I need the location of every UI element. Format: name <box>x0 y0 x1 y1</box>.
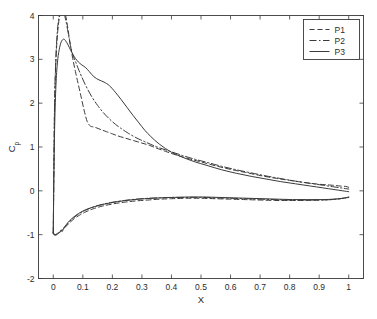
series-p2-lower-line <box>53 197 348 234</box>
series-p3-upper-line <box>53 39 348 234</box>
y-tick-label: -1 <box>27 230 35 240</box>
x-axis-title: X <box>198 294 205 305</box>
x-tick-label: 0.7 <box>254 282 266 292</box>
legend[interactable]: P1P2P3 <box>304 20 360 60</box>
x-tick-label: 0.1 <box>77 282 89 292</box>
x-tick-label: 0.2 <box>106 282 118 292</box>
x-tick-label: 0.4 <box>166 282 178 292</box>
x-tick-label: 0.6 <box>225 282 237 292</box>
x-tick-label: 0.9 <box>313 282 325 292</box>
axis-labels-group: X Cp <box>6 141 205 304</box>
y-axis-title-subscript: p <box>12 141 20 145</box>
x-tick-label: 0.8 <box>284 282 296 292</box>
series-p1-lower-line <box>53 197 348 235</box>
legend-label-p2: P2 <box>335 36 346 46</box>
tick-labels-group: 00.10.20.30.40.50.60.70.80.91-2-101234 <box>27 11 351 292</box>
y-tick-label: 0 <box>30 186 35 196</box>
series-p3-lower-line <box>53 197 348 235</box>
x-tick-label: 0.5 <box>195 282 207 292</box>
y-tick-label: 1 <box>30 142 35 152</box>
legend-box <box>304 20 360 60</box>
x-tick-label: 0 <box>51 282 56 292</box>
figure-container: 00.10.20.30.40.50.60.70.80.91-2-101234 X… <box>0 0 377 319</box>
series-p3 <box>53 39 348 235</box>
y-tick-label: 4 <box>30 11 35 21</box>
legend-label-p3: P3 <box>335 47 346 57</box>
legend-label-p1: P1 <box>335 25 346 35</box>
y-tick-label: 3 <box>30 54 35 64</box>
cp-line-chart: 00.10.20.30.40.50.60.70.80.91-2-101234 X… <box>0 0 377 319</box>
y-tick-label: 2 <box>30 98 35 108</box>
y-tick-label: -2 <box>27 274 35 284</box>
x-tick-label: 0.3 <box>136 282 148 292</box>
y-axis-title: Cp <box>6 141 21 152</box>
x-tick-label: 1 <box>346 282 351 292</box>
